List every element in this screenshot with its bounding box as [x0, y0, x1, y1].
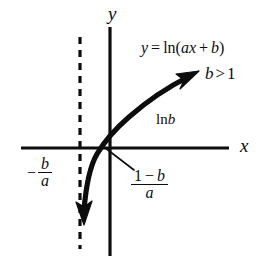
asymptote-fraction: b a: [38, 156, 52, 189]
equation-plus-sign: +: [196, 39, 211, 56]
y-intercept-ln-symbol: ln: [156, 111, 168, 127]
logarithm-graph-figure: y x y=ln(ax+b) b>1 lnb − b a 1−b a: [0, 0, 274, 269]
asymptote-value-label: − b a: [27, 156, 52, 189]
x-axis-label: x: [240, 136, 248, 155]
x-intercept-denominator: a: [131, 185, 168, 201]
condition-relation-sign: >: [214, 64, 228, 83]
x-intercept-numerator-one: 1: [134, 167, 142, 184]
equation-variable-x: x: [189, 39, 196, 56]
x-intercept-numerator-b: b: [157, 167, 165, 184]
x-intercept-value-label: 1−b a: [131, 168, 168, 201]
y-axis-label: y: [108, 4, 116, 23]
condition-value: 1: [227, 64, 236, 83]
x-intercept-fraction: 1−b a: [131, 168, 168, 201]
condition-label: b>1: [205, 65, 236, 82]
equation-label: y=ln(ax+b): [141, 40, 224, 56]
equation-ln-symbol: ln: [163, 39, 175, 56]
equation-close-paren: ): [219, 39, 224, 56]
asymptote-numerator: b: [38, 156, 52, 173]
condition-variable: b: [205, 64, 214, 83]
equation-constant-b: b: [211, 39, 219, 56]
y-intercept-argument-b: b: [168, 111, 176, 127]
equation-coefficient-a: a: [181, 39, 189, 56]
asymptote-denominator: a: [38, 173, 52, 189]
x-intercept-numerator-minus-sign: −: [142, 167, 157, 184]
equation-equals-sign: =: [148, 39, 163, 56]
graph-canvas: [0, 0, 274, 269]
x-intercept-numerator: 1−b: [131, 168, 168, 185]
y-intercept-label: lnb: [156, 112, 175, 127]
asymptote-minus-sign: −: [27, 165, 38, 181]
